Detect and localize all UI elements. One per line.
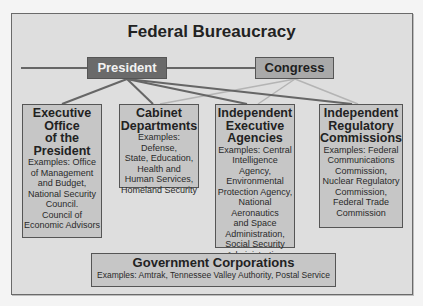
heading-line: Independent: [320, 107, 402, 120]
executive-office-node: Executive Office of the President Exampl…: [22, 104, 102, 238]
examples-line: Protection Agency,: [216, 187, 294, 198]
congress-node: Congress: [255, 57, 334, 79]
heading-line: Commissions: [320, 132, 402, 145]
examples-line: and Space: [216, 218, 294, 229]
examples-line: Commission: [320, 208, 402, 219]
examples-line: Nuclear Regulatory: [320, 176, 402, 187]
examples-line: Examples: Federal: [320, 145, 402, 156]
node-examples: Examples: Defense, State, Education, Hea…: [120, 132, 198, 195]
examples-line: Social Security: [216, 239, 294, 250]
examples-line: Administration,: [216, 229, 294, 240]
examples-line: Environmental: [216, 176, 294, 187]
examples-line: State, Education,: [120, 153, 198, 164]
president-node: President: [87, 57, 167, 79]
examples-line: Examples: Defense,: [120, 132, 198, 153]
node-heading: Cabinet Departments: [120, 107, 198, 132]
examples-line: Examples: Central: [216, 145, 294, 156]
examples-line: Economic Advisors: [23, 220, 101, 231]
heading-line: Departments: [120, 120, 198, 133]
node-heading: Independent Regulatory Commissions: [320, 107, 402, 145]
examples-line: Intelligence Agency,: [216, 155, 294, 176]
examples-line: Federal Trade: [320, 197, 402, 208]
independent-executive-agencies-node: Independent Executive Agencies Examples:…: [215, 104, 295, 248]
node-examples: Examples: Office of Management and Budge…: [23, 157, 101, 231]
node-examples: Examples: Federal Communications Commiss…: [320, 145, 402, 219]
examples-line: Human Services,: [120, 174, 198, 185]
examples-line: and Budget,: [23, 178, 101, 189]
heading-line: of the: [23, 132, 101, 145]
examples-line: National Security: [23, 189, 101, 200]
heading-line: Executive: [23, 107, 101, 120]
examples-line: Homeland Security: [120, 185, 198, 196]
cabinet-departments-node: Cabinet Departments Examples: Defense, S…: [119, 104, 199, 188]
examples-line: National Aeronautics: [216, 197, 294, 218]
examples-line: of Management: [23, 168, 101, 179]
examples-line: Examples: Office: [23, 157, 101, 168]
president-to-irc-line: [127, 79, 352, 104]
node-heading: Executive Office of the President: [23, 107, 101, 157]
examples-line: Commission,: [320, 166, 402, 177]
node-heading: Government Corporations: [92, 255, 335, 270]
examples-line: Council.: [23, 199, 101, 210]
node-examples: Examples: Amtrak, Tennessee Valley Autho…: [92, 270, 335, 281]
heading-line: President: [23, 145, 101, 158]
government-corporations-node: Government Corporations Examples: Amtrak…: [91, 253, 336, 287]
heading-line: Agencies: [216, 132, 294, 145]
heading-line: Independent: [216, 107, 294, 120]
examples-line: Health and: [120, 164, 198, 175]
examples-line: Communications: [320, 155, 402, 166]
node-examples: Examples: Central Intelligence Agency, E…: [216, 145, 294, 261]
examples-line: Council of: [23, 210, 101, 221]
independent-regulatory-commissions-node: Independent Regulatory Commissions Examp…: [319, 104, 403, 228]
president-to-eop-line: [62, 79, 127, 104]
heading-line: Cabinet: [120, 107, 198, 120]
examples-line: Commission,: [320, 187, 402, 198]
node-heading: Independent Executive Agencies: [216, 107, 294, 145]
